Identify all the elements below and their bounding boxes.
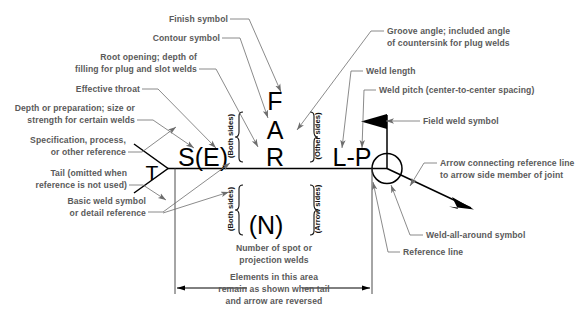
label-groove-angle-line2: of countersink for plug welds bbox=[387, 38, 510, 48]
symbol-root-opening: R bbox=[266, 143, 284, 171]
leader-basic-weld-2 bbox=[163, 192, 229, 213]
leader-depth-preparation bbox=[153, 120, 194, 148]
label-basic-weld-line2: or detail reference bbox=[70, 208, 147, 218]
symbol-contour: A bbox=[267, 116, 284, 144]
leader-weld-all-around bbox=[391, 185, 410, 235]
leader-reference-line bbox=[373, 182, 388, 252]
label-depth-prep-line1: Depth or preparation; size or bbox=[15, 103, 136, 113]
brace-label-arrow-sides: (Arrow sides) bbox=[313, 184, 322, 233]
label-reference-line: Reference line bbox=[403, 247, 463, 257]
label-effective-throat: Effective throat bbox=[76, 84, 140, 94]
leader-effective-throat bbox=[158, 89, 216, 148]
label-contour-symbol: Contour symbol bbox=[153, 33, 220, 43]
leader-finish bbox=[249, 19, 281, 92]
label-root-opening-line1: Root opening; depth of bbox=[100, 52, 197, 62]
brace-label-both-sides-lower: (Both sides) bbox=[226, 187, 235, 231]
symbol-effective-throat: S(E) bbox=[178, 143, 228, 171]
label-tail-line2: reference is not used) bbox=[35, 180, 127, 190]
label-number-spot-line1: Number of spot or bbox=[236, 243, 313, 253]
symbol-length-pitch: L-P bbox=[333, 143, 372, 171]
field-weld-flag bbox=[361, 114, 387, 129]
label-elements-line3: and arrow are reversed bbox=[226, 296, 323, 306]
diagram-canvas: (Both sides) (Both sides) (Other sides) … bbox=[0, 0, 586, 319]
label-weld-all-around: Weld-all-around symbol bbox=[426, 230, 525, 240]
label-elements-line1: Elements in this area bbox=[230, 272, 318, 282]
label-field-weld-symbol: Field weld symbol bbox=[423, 116, 499, 126]
leader-weld-length bbox=[342, 71, 351, 148]
label-elements-line2: remain as shown when tail bbox=[218, 284, 329, 294]
leader-tail bbox=[143, 185, 166, 200]
symbol-number-of-welds: (N) bbox=[249, 211, 284, 239]
brace-label-other-sides: (Other sides) bbox=[313, 112, 322, 159]
label-number-spot-line2: projection welds bbox=[239, 255, 309, 265]
leader-root-opening bbox=[216, 69, 258, 147]
leader-contour bbox=[240, 38, 268, 118]
label-finish-symbol: Finish symbol bbox=[169, 14, 228, 24]
label-specification-line2: or other reference bbox=[51, 147, 126, 157]
leader-groove-angle bbox=[297, 31, 371, 130]
leader-weld-pitch bbox=[362, 90, 364, 148]
label-weld-length: Weld length bbox=[366, 66, 416, 76]
brace-both-sides-lower bbox=[235, 185, 243, 235]
label-basic-weld-line1: Basic weld symbol bbox=[67, 196, 146, 206]
symbol-tail: T bbox=[146, 161, 159, 184]
welding-symbol-diagram: (Both sides) (Both sides) (Other sides) … bbox=[0, 0, 586, 319]
label-weld-pitch: Weld pitch (center-to-center spacing) bbox=[379, 85, 534, 95]
leader-specification bbox=[142, 127, 176, 152]
brace-both-sides-upper bbox=[235, 112, 243, 162]
label-root-opening-line2: filling for plug and slot welds bbox=[75, 64, 197, 74]
label-tail-line1: Tail (omitted when bbox=[50, 168, 127, 178]
label-specification-line1: Specification, process, bbox=[30, 135, 126, 145]
label-arrow-connecting-line2: to arrow side member of joint bbox=[440, 170, 563, 180]
label-depth-prep-line2: strength for certain welds bbox=[27, 115, 135, 125]
label-arrow-connecting-line1: Arrow connecting reference line bbox=[440, 158, 575, 168]
label-groove-angle-line1: Groove angle; included angle bbox=[387, 26, 510, 36]
